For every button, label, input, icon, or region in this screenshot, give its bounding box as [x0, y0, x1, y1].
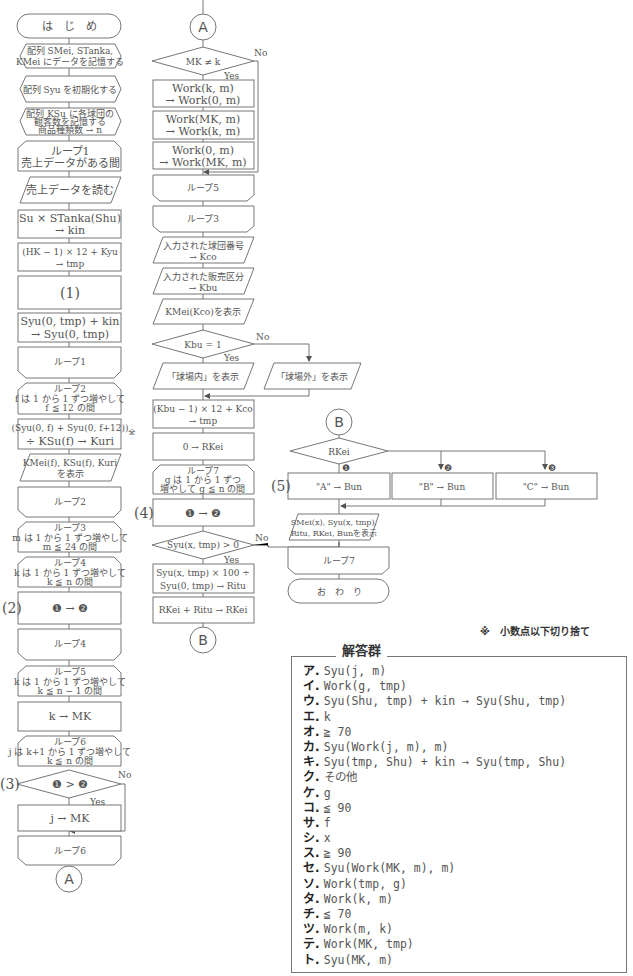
answer-item: チ. ≦ 70 — [303, 907, 566, 922]
answer-item: キ. Syu(tmp, Shu) + kin → Syu(tmp, Shu) — [303, 755, 566, 770]
calc-tmp2-line1: (Kbu − 1) × 12 + Kco — [153, 404, 252, 414]
add-rkei-label: RKei + Ritu → RKei — [159, 605, 248, 615]
loop6-start-line3: k ≦ n の間 — [47, 756, 93, 766]
store-ksu-line3: 商品種類数 → n — [38, 124, 102, 135]
loop6-end-label: ループ6 — [54, 846, 86, 856]
answer-item: ト. Syu(MK, m) — [303, 953, 566, 968]
loop4-start-line1: ループ4 — [54, 558, 86, 568]
bun-b-label: "B" → Bun — [419, 482, 466, 492]
no-label-syu: No — [255, 533, 268, 543]
answer-item: ク. その他 — [303, 770, 566, 785]
calc-tmp-line1: (HK − 1) × 12 + Kyu — [22, 247, 118, 257]
answer-item: イ. Work(g, tmp) — [303, 679, 566, 694]
blank-2-number: (2) — [2, 600, 22, 616]
blank-5-number: (5) — [271, 478, 291, 494]
loop2-start-line3: f ≦ 12 の間 — [45, 403, 94, 413]
input-kco-line2: → Kco — [189, 252, 217, 262]
display-result-line2: Ritu, RKei, Bunを表示 — [291, 528, 377, 538]
answer-item: ア. Syu(j, m) — [303, 664, 566, 679]
loop2-end-label: ループ2 — [54, 497, 86, 507]
add-syu-line1: Syu(0, tmp) + kin — [21, 315, 120, 328]
blank-4-number: (4) — [134, 505, 154, 521]
yes-label-3: Yes — [89, 797, 105, 807]
init-rkei-label: 0 → RKei — [183, 442, 224, 452]
loop6-start-line1: ループ6 — [54, 737, 86, 747]
swap2-line2: → Work(k, m) — [166, 125, 241, 138]
connector-a-top-label: A — [198, 19, 208, 35]
answer-item: ケ. g — [303, 786, 566, 801]
display-kuri-line1: KMei(f), KSu(f), Kuri — [23, 458, 118, 468]
display-inside-label: 「球場内」を表示 — [167, 371, 239, 382]
calc-ritu-line1: Syu(x, tmp) × 100 ÷ — [156, 568, 250, 578]
calc-tmp-line2: → tmp — [56, 259, 85, 269]
loop2-start-line1: ループ2 — [54, 384, 86, 394]
answer-item: タ. Work(k, m) — [303, 892, 566, 907]
loop4-start-line3: k ≦ n の間 — [47, 577, 93, 587]
input-kbu-line1: 入力された販売区分 — [163, 271, 244, 282]
answer-item: ウ. Syu(Shu, tmp) + kin → Syu(Shu, tmp) — [303, 694, 566, 709]
yes-label-kbu: Yes — [223, 353, 239, 363]
calc-kuri-line1: (Syu(0, f) + Syu(0, f+12)) — [12, 423, 129, 433]
loop7-start-line3: 増やして g ≦ n の間 — [160, 483, 245, 494]
answer-item: ス. ≧ 90 — [303, 846, 566, 861]
loop1-end-label: ループ1 — [54, 357, 86, 367]
blank-3-number: (3) — [0, 776, 20, 792]
loop3-end-label: ループ3 — [187, 214, 219, 224]
kuri-footnote-mark: ※ — [128, 427, 136, 437]
no-label-mk: No — [254, 48, 267, 58]
loop5-end-label: ループ5 — [187, 183, 219, 193]
answer-group-title: 解答群 — [336, 640, 387, 659]
loop3-start-line1: ループ3 — [54, 523, 86, 533]
loop5-start-line1: ループ5 — [54, 667, 86, 677]
answer-list: ア. Syu(j, m) イ. Work(g, tmp) ウ. Syu(Shu,… — [303, 664, 566, 968]
answer-item: サ. f — [303, 816, 566, 831]
bun-c-label: "C" → Bun — [523, 482, 570, 492]
answer-item: ソ. Work(tmp, g) — [303, 877, 566, 892]
answer-item: セ. Syu(Work(MK, m), m) — [303, 861, 566, 876]
decision-syu-label: Syu(x, tmp) > 0 — [167, 540, 239, 550]
loop5-start-line3: k ≦ n − 1 の間 — [38, 686, 103, 696]
blank-1-label: (1) — [60, 285, 80, 301]
answer-item: シ. x — [303, 831, 566, 846]
answer-item: テ. Work(MK, tmp) — [303, 937, 566, 952]
decision-mk-label: MK ≠ k — [186, 57, 221, 67]
answer-item: カ. Syu(Work(j, m), m) — [303, 740, 566, 755]
connector-b-top-label: B — [334, 414, 344, 430]
input-kco-line1: 入力された球団番号 — [163, 240, 244, 251]
display-kuri-line2: を表示 — [57, 468, 84, 479]
answer-item: ツ. Work(m, k) — [303, 922, 566, 937]
display-result-line1: SMei(x), Syu(x, tmp), — [291, 518, 377, 527]
swap3-line2: → Work(MK, m) — [159, 156, 246, 169]
answer-item: コ. ≦ 90 — [303, 801, 566, 816]
decision-rkei-label: RKei — [328, 447, 350, 457]
add-syu-line2: → Syu(0, tmp) — [31, 328, 109, 341]
decision-kbu-label: Kbu = 1 — [184, 340, 221, 350]
loop4-end-label: ループ4 — [54, 639, 86, 649]
branch-mark-3: ❸ — [548, 463, 556, 473]
k-to-mk-label: k → MK — [49, 710, 92, 723]
display-outside-label: 「球場外」を表示 — [276, 371, 348, 382]
store-arrays-line2: KMei にデータを記憶する — [16, 56, 124, 67]
no-label-3: No — [118, 770, 131, 780]
connector-b-bottom-label: B — [198, 632, 208, 648]
no-label-kbu: No — [256, 332, 269, 342]
answer-item: オ. ≧ 70 — [303, 725, 566, 740]
input-kbu-line2: → Kbu — [189, 283, 218, 293]
branch-mark-2: ❷ — [444, 463, 452, 473]
read-data-label: 売上データを読む — [26, 183, 114, 197]
calc-kuri-line2: ÷ KSu(f) → Kuri — [26, 435, 115, 448]
store-arrays-line1: 配列 SMei, STanka, — [27, 45, 113, 56]
j-to-mk-label: j → MK — [48, 812, 90, 825]
swap1-line2: → Work(0, m) — [166, 94, 241, 107]
footnote: ※ 小数点以下切り捨て — [480, 623, 590, 638]
end-label: お わ り — [317, 587, 362, 597]
loop1-start-line2: 売上データがある間 — [21, 156, 120, 170]
blank-4-label: ❶ → ❷ — [185, 507, 221, 520]
calc-kin-line2: → kin — [55, 224, 85, 237]
answer-item: エ. k — [303, 710, 566, 725]
branch-mark-1: ❶ — [342, 463, 350, 473]
bun-a-label: "A" → Bun — [316, 482, 362, 492]
loop3-start-line3: m ≦ 24 の間 — [43, 542, 98, 552]
blank-3-label: ❶ > ❷ — [52, 778, 88, 791]
blank-2-label: ❶ → ❷ — [52, 602, 88, 615]
